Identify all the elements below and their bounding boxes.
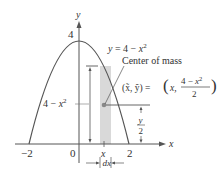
center-of-mass-label: Center of mass [122,55,182,66]
formula-close-paren: ) [211,76,217,95]
half-height-down-icon [140,140,143,144]
half-height-up-icon [140,107,143,111]
x-axis-arrow-icon [159,142,166,147]
formula-open-paren: ( [163,76,169,95]
dx-arrow-right-icon [96,162,100,165]
x-axis-label: x [168,138,174,149]
y-tick-4: 4 [68,28,74,40]
half-height-numerator: y [138,115,143,125]
centroid-lhs: (x̃, ỹ) = [122,83,150,94]
centroid-denominator: 2 [192,89,197,99]
dx-label: dx [103,158,112,168]
height-arrow-up-icon [89,67,92,71]
y-axis-label: y [75,9,81,20]
x-tick-0: 0 [70,147,76,159]
dx-arrow-left-icon [111,162,115,165]
diagram-canvas: y x 4 −2 0 2 x dx y = 4 − x2 Center of m… [0,0,220,176]
centroid-x-part: x, [169,83,177,93]
curve-label: y = 4 − x2 [107,42,147,54]
centroid-numerator: 4 − x2 [181,75,202,87]
x-tick-neg2: −2 [21,147,33,159]
half-height-denominator: 2 [139,126,144,136]
height-arrow-down-icon [89,139,92,143]
height-label: 4 − x2 [43,97,67,109]
y-axis-arrow-icon [77,21,82,28]
x-tick-2: 2 [127,147,133,159]
center-of-mass-diagram: y x 4 −2 0 2 x dx y = 4 − x2 Center of m… [0,0,220,176]
